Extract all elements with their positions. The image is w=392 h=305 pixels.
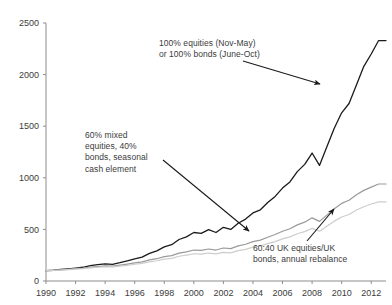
y-axis-tick-label: 2500 xyxy=(19,18,39,28)
x-axis-tick-label: 2008 xyxy=(302,288,322,298)
x-axis-tick-label: 2004 xyxy=(243,288,263,298)
y-axis-tick-label: 500 xyxy=(24,225,39,235)
arrow-rebalance xyxy=(307,209,334,241)
y-axis-tick-label: 1500 xyxy=(19,121,39,131)
chart-container: 0500100015002000250019901992199419961998… xyxy=(0,0,392,305)
arrow-mixed xyxy=(163,160,249,231)
annotation-rebalance-strategy: 60:40 UK equities/UK bonds, annual rebal… xyxy=(253,243,347,265)
y-axis-tick-label: 2000 xyxy=(19,70,39,80)
x-axis-tick-label: 2010 xyxy=(332,288,352,298)
annotation-timing-strategy: 100% equities (Nov-May) or 100% bonds (J… xyxy=(159,38,260,60)
arrow-timing xyxy=(243,61,320,84)
x-axis-tick-label: 2012 xyxy=(361,288,381,298)
x-axis-tick-label: 2006 xyxy=(273,288,293,298)
x-axis-tick-label: 1990 xyxy=(36,288,56,298)
y-axis-tick-label: 0 xyxy=(34,276,39,286)
x-axis-tick-label: 2002 xyxy=(213,288,233,298)
x-axis-tick-label: 1992 xyxy=(66,288,86,298)
x-axis-tick-label: 2000 xyxy=(184,288,204,298)
annotation-arrows xyxy=(163,61,334,241)
y-axis-tick-label: 1000 xyxy=(19,173,39,183)
x-axis-tick-label: 1994 xyxy=(95,288,115,298)
annotation-mixed-strategy: 60% mixed equities, 40% bonds, seasonal … xyxy=(85,130,148,175)
x-axis-tick-label: 1996 xyxy=(125,288,145,298)
x-axis-tick-label: 1998 xyxy=(154,288,174,298)
